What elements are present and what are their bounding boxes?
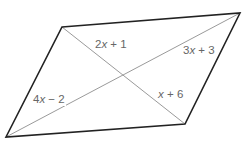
label-op: + bbox=[110, 38, 117, 50]
label-op: + bbox=[198, 44, 205, 56]
label-right-segment: 3x + 3 bbox=[182, 45, 216, 57]
diagonal-bottom-left-to-top-right bbox=[6, 13, 240, 137]
label-var: x bbox=[39, 93, 45, 105]
label-var: x bbox=[189, 44, 195, 56]
label-bottom-segment: x + 6 bbox=[157, 89, 184, 101]
label-const: 3 bbox=[208, 44, 214, 56]
label-op: − bbox=[48, 93, 55, 105]
label-const: 1 bbox=[120, 38, 126, 50]
label-op: + bbox=[167, 88, 174, 100]
label-top-segment: 2x + 1 bbox=[94, 39, 128, 51]
label-const: 6 bbox=[177, 88, 183, 100]
label-left-segment: 4x − 2 bbox=[32, 94, 66, 106]
label-const: 2 bbox=[58, 93, 64, 105]
parallelogram-diagram bbox=[0, 0, 251, 146]
label-var: x bbox=[101, 38, 107, 50]
label-var: x bbox=[158, 88, 164, 100]
